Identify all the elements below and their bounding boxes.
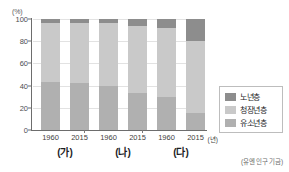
bar-segment-working [70, 23, 89, 83]
bar-stack[interactable] [157, 19, 176, 130]
bar-segment-youth [70, 83, 89, 130]
bar-segment-elder [157, 19, 176, 28]
bar-stack[interactable] [99, 19, 118, 130]
bar-segment-youth [128, 93, 147, 130]
bar-stack[interactable] [41, 19, 60, 130]
legend-swatch-icon [225, 119, 236, 127]
legend: 노년층청장년층유소년층 [219, 86, 283, 133]
legend-item[interactable]: 유소년층 [225, 117, 278, 128]
plot-area [33, 19, 205, 130]
legend-label: 유소년층 [240, 117, 267, 128]
group-separator-tick [84, 130, 85, 133]
y-tick-mark [28, 85, 31, 86]
bar-segment-youth [186, 113, 205, 130]
bar-segment-working [128, 26, 147, 94]
bar-segment-elder [186, 19, 205, 41]
legend-item[interactable]: 청장년층 [225, 104, 278, 115]
group-label: (가) [45, 144, 85, 159]
y-tick-label: 60 [6, 59, 28, 68]
bar-stack[interactable] [128, 19, 147, 130]
legend-swatch-icon [225, 106, 236, 114]
group-label: (다) [161, 144, 201, 159]
x-tick-label: 1960 [154, 133, 180, 142]
bar-segment-elder [128, 19, 147, 26]
y-tick-label: 40 [6, 81, 28, 90]
group-separator-tick [142, 130, 143, 133]
bar-segment-working [157, 28, 176, 97]
x-axis-line [31, 130, 207, 131]
y-tick-label: 20 [6, 103, 28, 112]
bar-segment-working [41, 23, 60, 82]
bar-segment-working [99, 23, 118, 85]
y-tick-label: 0 [6, 126, 28, 135]
y-axis-line [31, 18, 32, 130]
group-label: (나) [103, 144, 143, 159]
x-tick-label: 2015 [183, 133, 209, 142]
legend-swatch-icon [225, 93, 236, 101]
bar-stack[interactable] [186, 19, 205, 130]
x-tick-label: 1960 [96, 133, 122, 142]
legend-label: 노년층 [240, 91, 260, 102]
y-tick-mark [28, 130, 31, 131]
x-tick-label: 1960 [38, 133, 64, 142]
y-tick-label: 80 [6, 37, 28, 46]
source-note: (유엔 인구 기금) [241, 156, 283, 166]
y-tick-mark [28, 19, 31, 20]
bar-stack[interactable] [70, 19, 89, 130]
x-tick-label: 2015 [67, 133, 93, 142]
bar-segment-youth [157, 97, 176, 130]
y-tick-mark [28, 63, 31, 64]
x-axis-unit-label: (년) [208, 134, 218, 144]
bar-segment-youth [41, 82, 60, 130]
legend-label: 청장년층 [240, 104, 267, 115]
bar-segment-working [186, 41, 205, 113]
x-tick-label: 2015 [125, 133, 151, 142]
y-tick-mark [28, 41, 31, 42]
bar-segment-youth [99, 86, 118, 130]
y-tick-mark [28, 107, 31, 108]
y-tick-label: 100 [6, 15, 28, 24]
legend-item[interactable]: 노년층 [225, 91, 278, 102]
chart-container: (%) 020406080100 19602015196020151960201… [0, 0, 289, 172]
